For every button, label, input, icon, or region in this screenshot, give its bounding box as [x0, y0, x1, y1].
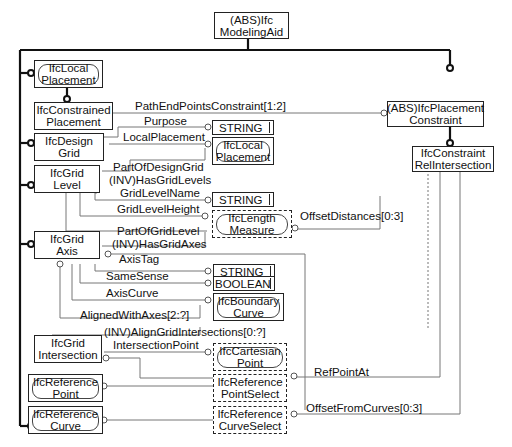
- type-ifc-length-measure[interactable]: IfcLength Measure: [212, 210, 292, 238]
- rel-axis-curve: AxisCurve: [106, 287, 158, 299]
- entity-label: IfcReference PointSelect: [214, 376, 286, 400]
- entity-ifc-grid-axis[interactable]: IfcGrid Axis: [34, 231, 100, 259]
- entity-ifc-grid-level[interactable]: IfcGrid Level: [34, 165, 100, 193]
- rel-axis-tag: AxisTag: [119, 253, 159, 265]
- select-ifc-reference-point-select[interactable]: IfcReference PointSelect: [213, 374, 287, 402]
- rel-grid-level-name: GridLevelName: [120, 187, 200, 199]
- rel-path-end-points: PathEndPointsConstraint[1:2]: [135, 100, 286, 112]
- rel-grid-level-height: GridLevelHeight: [117, 203, 199, 215]
- entity-label: IfcLength Measure: [216, 214, 288, 235]
- rel-aligned-with-axes: AlignedWithAxes[2:?]: [80, 309, 189, 321]
- entity-label: IfcLocal Placement: [216, 141, 270, 162]
- rel-part-of-design-grid: PartOfDesignGrid: [113, 161, 204, 173]
- type-ifc-cartesian-point[interactable]: IfcCartesian Point: [213, 343, 287, 371]
- entity-label: IfcCartesian Point: [217, 347, 283, 368]
- rel-offset-from-curves: OffsetFromCurves[0:3]: [306, 402, 422, 414]
- rel-part-of-grid-level: PartOfGridLevel: [117, 225, 199, 237]
- type-boolean[interactable]: BOOLEAN: [213, 276, 275, 291]
- select-ifc-reference-curve-select[interactable]: IfcReference CurveSelect: [213, 406, 287, 434]
- entity-ifc-constrained-placement[interactable]: IfcConstrained Placement: [34, 102, 113, 130]
- entity-ifc-modeling-aid[interactable]: (ABS)Ifc ModelingAid: [214, 12, 289, 39]
- express-g-diagram: (ABS)Ifc ModelingAid IfcLocal Placement …: [0, 0, 512, 447]
- type-string-purpose[interactable]: STRING: [212, 120, 274, 135]
- type-string-grid-level-name[interactable]: STRING: [212, 192, 274, 207]
- rel-offset-distances: OffsetDistances[0:3]: [300, 210, 403, 222]
- entity-ifc-placement-constraint[interactable]: (ABS)IfcPlacement Constraint: [387, 101, 484, 127]
- entity-ifc-reference-point[interactable]: IfcReference Point: [28, 374, 103, 402]
- rel-ref-point-at: RefPointAt: [314, 366, 369, 378]
- entity-ifc-boundary-curve[interactable]: IfcBoundary Curve: [213, 293, 284, 321]
- rel-local-placement: LocalPlacement: [123, 131, 205, 143]
- rel-purpose: Purpose: [144, 115, 187, 127]
- entity-ifc-local-placement-ref[interactable]: IfcLocal Placement: [212, 137, 274, 165]
- entity-ifc-reference-curve[interactable]: IfcReference Curve: [28, 406, 103, 434]
- rel-same-sense: SameSense: [106, 270, 169, 282]
- entity-ifc-local-placement[interactable]: IfcLocal Placement: [34, 60, 103, 88]
- entity-label: IfcReference CurveSelect: [214, 408, 286, 432]
- entity-ifc-grid-intersection[interactable]: IfcGrid Intersection: [34, 335, 102, 363]
- entity-ifc-design-grid[interactable]: IfcDesign Grid: [34, 133, 104, 161]
- rel-has-grid-levels: (INV)HasGridLevels: [109, 174, 211, 186]
- entity-label: IfcReference Curve: [32, 410, 99, 431]
- rel-intersection-point: IntersectionPoint: [113, 339, 199, 351]
- entity-ifc-constraint-rel-intersection[interactable]: IfcConstraint RelIntersection: [412, 146, 494, 172]
- entity-label: IfcBoundary Curve: [217, 297, 280, 318]
- entity-label: IfcLocal Placement: [38, 64, 99, 85]
- entity-label: IfcReference Point: [32, 378, 99, 399]
- rel-align-grid-intersections: (INV)AlignGridIntersections[0:?]: [104, 326, 266, 338]
- rel-has-grid-axes: (INV)HasGridAxes: [112, 238, 207, 250]
